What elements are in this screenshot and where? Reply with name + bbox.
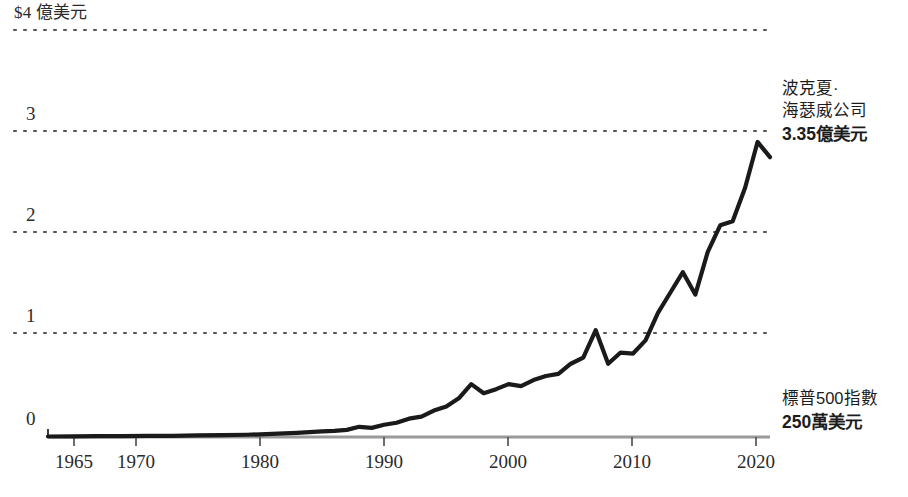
sp500-annotation: 標普500指數 250萬美元 [782, 388, 878, 434]
berkshire-annotation: 波克夏· 海瑟威公司 3.35億美元 [782, 78, 867, 146]
gridlines [14, 30, 772, 333]
berkshire-annotation-line1: 波克夏· [782, 78, 867, 100]
x-axis-label-1980: 1980 [241, 452, 279, 471]
x-axis-label-1970: 1970 [117, 452, 155, 471]
chart-plot-area [0, 0, 908, 497]
sp500-annotation-value: 250萬美元 [782, 411, 878, 434]
y-axis-label-2: 2 [26, 205, 36, 224]
y-axis-label-4: $4 億美元 [14, 4, 87, 21]
sp500-annotation-line1: 標普500指數 [782, 388, 878, 410]
x-axis-label-1990: 1990 [365, 452, 403, 471]
x-axis-label-2010: 2010 [613, 452, 651, 471]
x-axis-label-2020: 2020 [737, 452, 775, 471]
y-axis-label-0: 0 [26, 409, 36, 428]
berkshire-annotation-line2: 海瑟威公司 [782, 100, 867, 122]
berkshire-series-line [48, 142, 770, 437]
x-axis-label-2000: 2000 [489, 452, 527, 471]
y-axis-label-1: 1 [26, 306, 36, 325]
y-axis-label-3: 3 [26, 104, 36, 123]
berkshire-annotation-value: 3.35億美元 [782, 123, 867, 146]
chart-container: $4 億美元 3 2 1 0 1965 1970 1980 1990 2000 … [0, 0, 908, 497]
x-axis-label-1965: 1965 [55, 452, 93, 471]
